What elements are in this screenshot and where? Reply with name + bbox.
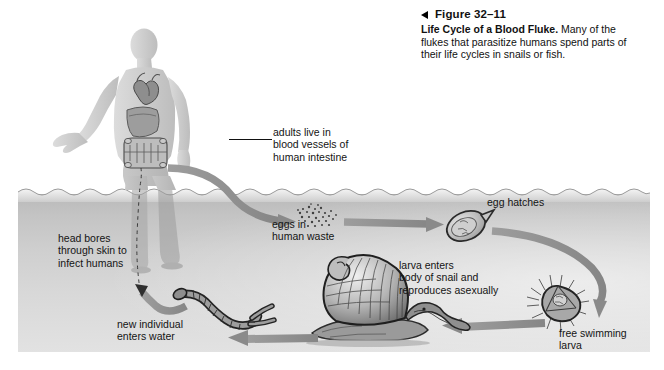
left-triangle-icon (421, 11, 428, 19)
intestine-organ (124, 138, 167, 168)
heart-organ (134, 73, 160, 105)
liver-organ (127, 107, 159, 137)
figure-stage: Figure 32–11 Life Cycle of a Blood Fluke… (0, 0, 664, 370)
label-head-bores-through-skin: head bores through skin to infect humans (58, 232, 127, 269)
figure-caption: Figure 32–11 Life Cycle of a Blood Fluke… (421, 8, 659, 61)
label-larva-enters-snail: larva enters body of snail and reproduce… (399, 259, 498, 296)
leader-line-adults (229, 139, 272, 140)
label-adults-live-in-blood-vessels: adults live in blood vessels of human in… (273, 126, 348, 163)
water-surface-icon (18, 186, 650, 202)
figure-number: Figure 32–11 (435, 8, 506, 20)
label-new-individual-enters-water: new individual enters water (117, 318, 183, 343)
label-eggs-in-human-waste: eggs in human waste (272, 218, 334, 243)
figure-caption-title: Life Cycle of a Blood Fluke. (421, 23, 558, 35)
figure-caption-text: Life Cycle of a Blood Fluke. Many of the… (421, 23, 635, 61)
figure-heading: Figure 32–11 (421, 8, 659, 20)
label-free-swimming-larva: free swimming larva (559, 327, 627, 352)
label-egg-hatches: egg hatches (487, 196, 544, 208)
